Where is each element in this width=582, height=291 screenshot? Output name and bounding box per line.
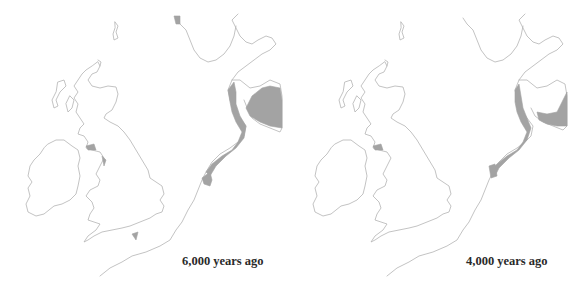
northern-isles-coast [98,22,118,66]
coastline-map [0,0,291,291]
time-label: 4,000 years ago [466,254,548,269]
hebrides-coast [339,80,361,112]
great-britain-coast [361,62,451,242]
hebrides-coast [52,80,74,112]
flooded-area-north-sea-coast [202,82,246,186]
flooded-area-denmark [246,86,282,128]
flooded-area-denmark [537,92,567,126]
flooded-area-north-sea-coast [489,84,531,178]
great-britain-coast [74,62,164,242]
northern-isles-coast [385,22,404,66]
flooded-area-britain-estuaries [373,144,383,150]
coastline-map [291,0,582,291]
map-panel-4000-years: 4,000 years ago [291,0,582,291]
ireland-coast [26,140,80,216]
ireland-coast [313,140,367,216]
continental-coast [387,14,567,276]
map-panel-6000-years: 6,000 years ago [0,0,291,291]
flooded-area-norway [174,16,180,24]
time-label: 6,000 years ago [182,254,264,269]
norway-coast [463,18,523,62]
norway-coast [176,18,236,62]
continental-coast [100,14,282,276]
